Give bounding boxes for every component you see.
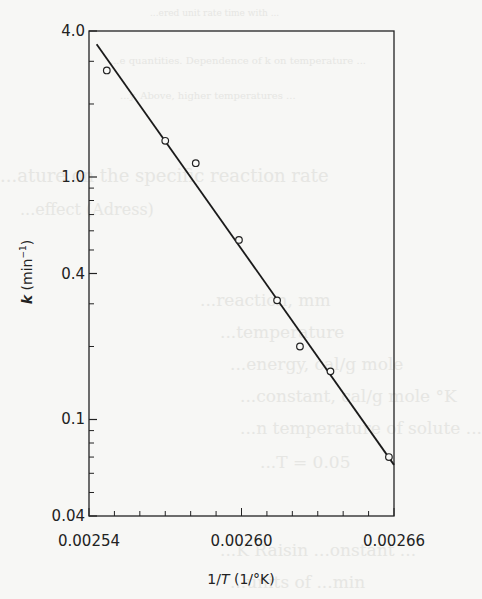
data-point-marker <box>297 343 304 350</box>
data-point-marker <box>236 237 243 244</box>
y-tick-label: 0.04 <box>52 507 85 525</box>
y-axis-tick-labels: 0.040.10.41.04.0 <box>52 22 85 525</box>
fit-line-segment <box>97 44 394 465</box>
y-axis-ticks <box>89 31 97 516</box>
plot-frame <box>89 31 394 516</box>
x-axis-ticks <box>89 508 394 516</box>
x-tick-label: 0.00254 <box>58 532 120 550</box>
data-point-marker <box>386 454 393 461</box>
data-point-marker <box>274 297 281 304</box>
data-point-marker <box>103 67 110 74</box>
x-tick-label: 0.00260 <box>210 532 272 550</box>
data-point-marker <box>162 138 169 145</box>
y-axis-title: k (min−1) <box>18 240 35 304</box>
y-tick-label: 4.0 <box>61 22 85 40</box>
y-tick-label: 0.1 <box>61 410 85 428</box>
y-tick-label: 1.0 <box>61 168 85 186</box>
data-point-marker <box>327 368 334 375</box>
x-axis-title: 1/T (1/°K) <box>207 571 274 587</box>
y-tick-label: 0.4 <box>61 265 85 283</box>
x-tick-label: 0.00266 <box>363 532 425 550</box>
x-axis-tick-labels: 0.002540.002600.00266 <box>58 532 425 550</box>
data-point-marker <box>192 160 199 167</box>
fit-line <box>97 44 394 465</box>
